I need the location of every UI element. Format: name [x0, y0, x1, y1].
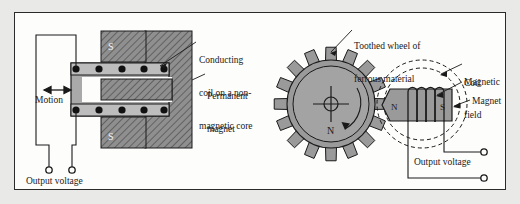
- label-motion: Motion: [35, 95, 63, 106]
- label-toothed-wheel: Toothed wheel of ferrous material: [354, 19, 420, 107]
- terminal-left-1: [46, 167, 52, 173]
- figure-canvas: S N S: [0, 0, 520, 204]
- leader-line-wheel: [331, 30, 352, 52]
- terminal-right-2: [481, 175, 487, 181]
- label-output-voltage-right: Output voltage: [414, 157, 471, 168]
- pole-label-s-bottom: S: [108, 131, 114, 142]
- label-permanent-magnet: Permanent magnet: [207, 69, 248, 157]
- label-magnet-right: Magnet: [472, 96, 501, 107]
- wheel-pole-label-n: N: [327, 125, 334, 136]
- pole-label-s-top: S: [108, 41, 114, 52]
- label-output-voltage-left: Output voltage: [26, 176, 83, 187]
- motion-arrow: [44, 87, 71, 94]
- terminal-right-1: [481, 149, 487, 155]
- label-coil-right: Coil: [464, 78, 480, 89]
- technical-diagram: S N S: [0, 0, 520, 204]
- terminal-left-2: [69, 167, 75, 173]
